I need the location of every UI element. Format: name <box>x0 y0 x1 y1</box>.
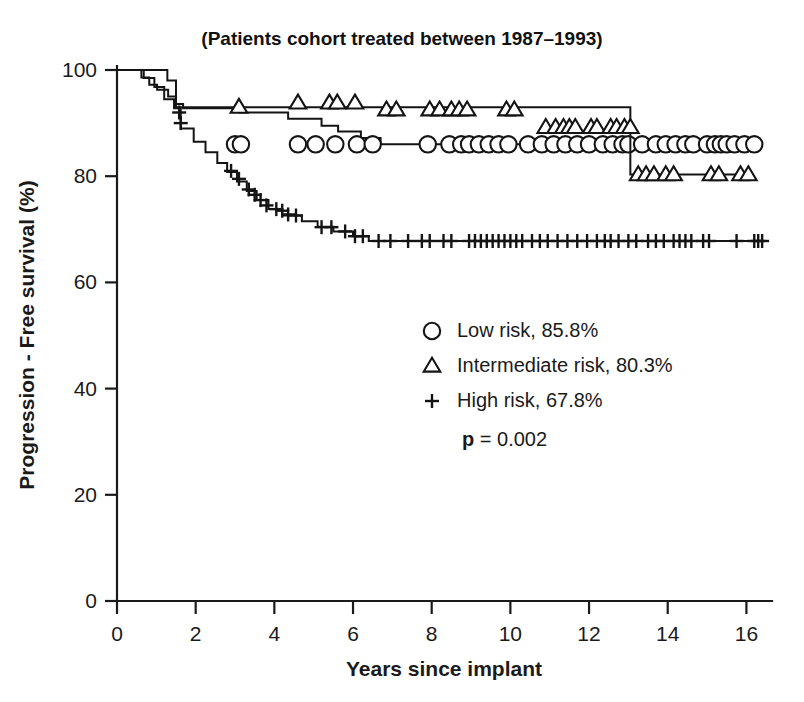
legend: Low risk, 85.8%Intermediate risk, 80.3%H… <box>424 319 673 411</box>
legend-label-2: High risk, 67.8% <box>457 389 603 411</box>
chart-title: (Patients cohort treated between 1987–19… <box>201 28 602 49</box>
y-tick-label-60: 60 <box>74 270 97 293</box>
legend-circle-circle-marker <box>424 323 440 339</box>
censor-plus-marker <box>401 234 415 248</box>
x-tick-label-12: 12 <box>577 622 600 645</box>
x-tick-label-8: 8 <box>426 622 438 645</box>
censor-plus-marker <box>730 234 744 248</box>
legend-triangle-triangle-marker <box>424 358 441 372</box>
censor-triangle-marker <box>290 95 307 109</box>
p-symbol: p <box>462 428 474 450</box>
figure-container: (Patients cohort treated between 1987–19… <box>0 0 804 702</box>
x-tick-label-16: 16 <box>735 622 758 645</box>
legend-item-1[interactable]: Intermediate risk, 80.3% <box>424 354 673 376</box>
y-tick-label-80: 80 <box>74 164 97 187</box>
y-tick-label-0: 0 <box>85 589 97 612</box>
censor-triangle-marker <box>231 99 248 113</box>
censor-triangle-marker <box>347 95 364 109</box>
x-tick-label-4: 4 <box>269 622 281 645</box>
p-value-annotation: p = 0.002 <box>462 428 547 450</box>
x-axis-title: Years since implant <box>346 657 542 680</box>
censor-circle-marker <box>307 136 323 152</box>
legend-item-0[interactable]: Low risk, 85.8% <box>424 319 599 341</box>
x-tick-label-10: 10 <box>499 622 522 645</box>
x-tick-label-14: 14 <box>656 622 680 645</box>
censor-plus-marker <box>423 234 437 248</box>
y-axis-ticks: 020406080100 <box>62 58 117 612</box>
legend-label-0: Low risk, 85.8% <box>457 319 598 341</box>
x-tick-label-6: 6 <box>347 622 359 645</box>
censor-circle-marker <box>420 136 436 152</box>
censor-plus-marker <box>232 172 246 186</box>
kaplan-meier-chart: (Patients cohort treated between 1987–19… <box>0 0 804 702</box>
legend-plus-plus-marker <box>425 394 439 408</box>
series-high-risk <box>117 70 769 248</box>
censor-plus-marker <box>444 234 458 248</box>
survival-curves <box>117 70 769 248</box>
censor-plus-marker <box>383 234 397 248</box>
y-tick-label-40: 40 <box>74 377 97 400</box>
curve-line <box>117 70 764 241</box>
curve-line <box>117 70 750 175</box>
legend-label-1: Intermediate risk, 80.3% <box>457 354 673 376</box>
series-intermediate-risk <box>117 70 757 180</box>
censor-circle-marker <box>290 136 306 152</box>
censor-circle-marker <box>500 136 516 152</box>
censor-circle-marker <box>746 136 762 152</box>
y-tick-label-20: 20 <box>74 483 97 506</box>
x-axis-ticks: 0246810121416 <box>111 601 758 645</box>
x-tick-label-0: 0 <box>111 622 123 645</box>
censor-circle-marker <box>327 136 343 152</box>
censor-plus-marker <box>289 208 303 222</box>
censor-circle-marker <box>349 136 365 152</box>
censor-plus-marker <box>356 229 370 243</box>
y-tick-label-100: 100 <box>62 58 97 81</box>
x-tick-label-2: 2 <box>190 622 202 645</box>
svg-text:p = 0.002: p = 0.002 <box>462 428 547 450</box>
p-value-text: = 0.002 <box>474 428 547 450</box>
legend-item-2[interactable]: High risk, 67.8% <box>425 389 603 411</box>
censor-circle-marker <box>364 136 380 152</box>
y-axis-title: Progression - Free survival (%) <box>15 180 38 489</box>
censor-circle-marker <box>233 136 249 152</box>
